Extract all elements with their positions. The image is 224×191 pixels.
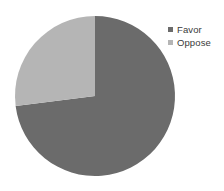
pie-chart-screenshot: Favor Oppose: [0, 0, 224, 191]
legend-item-oppose[interactable]: Oppose: [168, 38, 211, 48]
pie-slice-oppose[interactable]: [15, 16, 95, 106]
legend-swatch-favor: [168, 27, 173, 32]
legend-label-favor: Favor: [177, 25, 202, 35]
legend-item-favor[interactable]: Favor: [168, 25, 211, 35]
pie-slices: [15, 16, 175, 176]
legend-swatch-oppose: [168, 40, 173, 45]
legend-label-oppose: Oppose: [177, 38, 211, 48]
chart-legend: Favor Oppose: [168, 25, 211, 47]
